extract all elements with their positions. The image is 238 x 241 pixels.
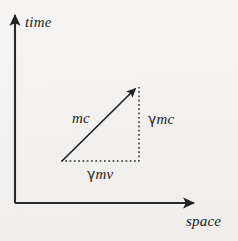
horizontal-component-label-text: mv: [96, 166, 114, 182]
vertical-component-label-text: mc: [157, 111, 175, 127]
spacetime-diagram-figure: time space mc γmc γmv: [0, 0, 238, 241]
diagram-canvas: [0, 0, 238, 241]
vertical-axis-label: time: [25, 15, 52, 30]
horizontal-axis-label: space: [186, 214, 221, 229]
horizontal-component-label: γmv: [87, 167, 113, 182]
resultant-vector-label: mc: [72, 111, 90, 126]
gamma-symbol-horizontal: γ: [87, 166, 96, 182]
gamma-symbol-vertical: γ: [148, 111, 157, 127]
vertical-component-label: γmc: [148, 112, 174, 127]
